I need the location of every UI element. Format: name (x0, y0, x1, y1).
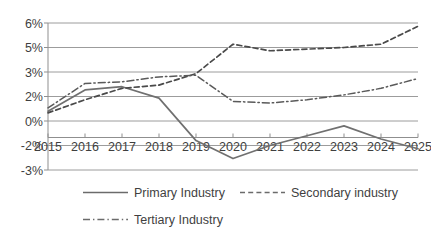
chart-container: 6%5%3%2%0%-2%-3% 20152016201720182019202… (0, 0, 431, 241)
y-axis-tick-label: 3% (25, 66, 43, 80)
x-axis-tick-label: 2023 (330, 140, 358, 154)
series-group (48, 26, 418, 158)
legend-item-secondary-industry[interactable]: Secondary industry (240, 186, 399, 200)
series-line-secondary-industry (48, 26, 418, 113)
y-axis-tick-label: -3% (21, 164, 43, 178)
legend-item-primary-industry[interactable]: Primary Industry (83, 186, 226, 200)
legend-item-tertiary-industry[interactable]: Tertiary Industry (83, 213, 224, 227)
x-axis-tick-label: 2019 (182, 140, 210, 154)
legend-label-secondary-industry: Secondary industry (291, 186, 399, 200)
x-axis-tick-label: 2016 (71, 140, 99, 154)
line-chart: 6%5%3%2%0%-2%-3% 20152016201720182019202… (0, 0, 431, 241)
legend-label-primary-industry: Primary Industry (134, 186, 226, 200)
y-axis-tick-label: 5% (25, 41, 43, 55)
x-axis (48, 134, 418, 138)
legend-label-tertiary-industry: Tertiary Industry (134, 213, 224, 227)
y-axis-tick-label: 0% (25, 115, 43, 129)
x-axis-tick-label: 2020 (219, 140, 247, 154)
x-axis-tick-label: 2018 (145, 140, 173, 154)
series-line-tertiary-industry (48, 75, 418, 108)
y-axis-tick-label: 6% (25, 17, 43, 31)
x-axis-tickmarks (48, 134, 418, 138)
x-axis-tick-label: 2022 (293, 140, 321, 154)
y-axis-tick-label: 2% (25, 90, 43, 104)
x-axis-tick-label: 2015 (34, 140, 62, 154)
x-axis-tick-labels: 2015201620172018201920202021202220232024… (34, 140, 431, 154)
legend: Primary Industry Secondary industry Tert… (83, 186, 399, 227)
x-axis-tick-label: 2017 (108, 140, 136, 154)
